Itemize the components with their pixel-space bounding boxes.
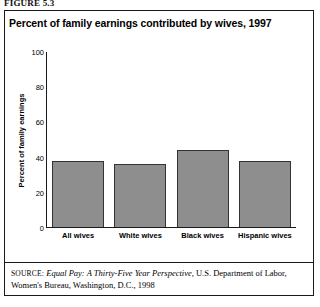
y-axis-tick-label: 40 (22, 153, 44, 162)
y-axis-title: Percent of family earnings (16, 52, 28, 228)
plot-area: 020406080100 (46, 52, 296, 228)
bar-black-wives (177, 150, 229, 227)
bar-slot (239, 52, 291, 227)
y-axis-tick-label: 80 (22, 83, 44, 92)
source-prefix: SOURCE: (11, 269, 44, 278)
y-axis-title-text: Percent of family earnings (18, 93, 27, 187)
x-axis-label: Black wives (172, 231, 234, 240)
x-axis-label: Hispanic wives (234, 231, 296, 240)
bar-slot (114, 52, 166, 227)
source-note: SOURCE: Equal Pay: A Thirty-Five Year Pe… (11, 268, 307, 291)
chart-title: Percent of family earnings contributed b… (9, 17, 272, 29)
figure-container: FIGURE 5.3 Percent of family earnings co… (0, 0, 320, 307)
bar-hispanic-wives (239, 161, 291, 228)
bar-all-wives (52, 161, 104, 228)
x-axis-label: All wives (47, 231, 109, 240)
bar-slot (177, 52, 229, 227)
bar-white-wives (114, 164, 166, 227)
source-publication: Equal Pay: A Thirty-Five Year Perspectiv… (46, 268, 194, 278)
y-axis-tick-label: 0 (22, 224, 44, 233)
y-axis-tick-label: 100 (22, 48, 44, 57)
x-axis-labels: All wivesWhite wivesBlack wivesHispanic … (47, 231, 296, 240)
source-divider (5, 262, 313, 263)
y-axis-tick-label: 60 (22, 118, 44, 127)
y-axis-tick-label: 20 (22, 188, 44, 197)
figure-number: FIGURE 5.3 (4, 0, 55, 8)
x-axis-label: White wives (109, 231, 171, 240)
x-axis-line (46, 227, 296, 228)
bar-series (47, 52, 296, 227)
bar-slot (52, 52, 104, 227)
